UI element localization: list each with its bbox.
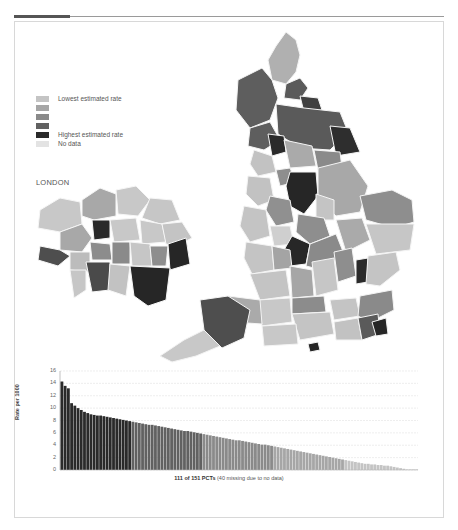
bar: [128, 421, 131, 470]
bar: [283, 448, 286, 470]
bar: [144, 424, 147, 470]
bar: [148, 425, 151, 470]
bar: [167, 428, 170, 470]
bar: [293, 450, 296, 470]
bar: [131, 422, 134, 470]
bar: [348, 461, 351, 470]
bar: [183, 431, 186, 470]
bar: [70, 403, 73, 470]
y-tick-label: 4: [44, 441, 56, 447]
bar: [219, 437, 222, 470]
bar: [370, 464, 373, 470]
bar: [322, 456, 325, 470]
bar: [386, 466, 389, 470]
bar: [244, 442, 247, 470]
bar: [251, 443, 254, 470]
caption-rest: (40 missing due to no data): [216, 475, 284, 481]
bar: [309, 453, 312, 470]
bar: [257, 444, 260, 470]
bar: [393, 467, 396, 470]
bar: [241, 441, 244, 470]
y-tick-label: 10: [44, 404, 56, 410]
bar: [267, 445, 270, 470]
bar: [341, 459, 344, 470]
bar: [280, 448, 283, 470]
bar: [373, 464, 376, 470]
bar: [154, 425, 157, 470]
bar: [331, 458, 334, 470]
y-axis-label: Rate per 1000: [14, 384, 20, 420]
y-tick-label: 2: [44, 454, 56, 460]
bar: [157, 426, 160, 470]
bar: [315, 455, 318, 470]
bar: [177, 430, 180, 470]
bar: [377, 465, 380, 470]
bar: [96, 416, 99, 470]
bar: [160, 427, 163, 470]
bar: [125, 421, 128, 471]
bar: [389, 466, 392, 470]
bar: [238, 440, 241, 470]
bar: [109, 417, 112, 470]
bar: [335, 458, 338, 470]
bar: [90, 414, 93, 470]
bar: [73, 406, 76, 470]
bar: [360, 463, 363, 470]
bar: [277, 447, 280, 470]
bar: [141, 424, 144, 470]
bar: [296, 451, 299, 470]
bar: [364, 464, 367, 470]
bar: [102, 416, 105, 470]
x-axis-caption: 111 of 151 PCTs (40 missing due to no da…: [0, 475, 458, 481]
bar: [299, 451, 302, 470]
bar: [328, 457, 331, 470]
bar: [367, 464, 370, 470]
y-tick-label: 6: [44, 429, 56, 435]
bar: [173, 429, 176, 470]
bar: [80, 410, 83, 470]
bar: [286, 449, 289, 470]
y-tick-label: 0: [44, 466, 56, 472]
bar: [351, 461, 354, 470]
bar: [115, 419, 118, 470]
bar: [312, 454, 315, 470]
bar: [319, 455, 322, 470]
bar: [235, 440, 238, 470]
bar: [67, 388, 70, 470]
bar: [186, 431, 189, 470]
bar: [135, 422, 138, 470]
bar: [196, 433, 199, 470]
bar: [289, 450, 292, 470]
bar: [190, 432, 193, 470]
bar: [231, 440, 234, 470]
bar: [302, 452, 305, 470]
bar: [215, 437, 218, 470]
bar: [202, 434, 205, 470]
bar: [77, 408, 80, 470]
bar: [270, 446, 273, 470]
bar: [273, 446, 276, 470]
bar: [383, 466, 386, 470]
bar: [122, 420, 125, 470]
bar: [151, 425, 154, 470]
bar: [228, 439, 231, 470]
bar: [86, 413, 89, 470]
bar: [380, 465, 383, 470]
bar: [354, 462, 357, 470]
bar: [83, 412, 86, 470]
y-tick-label: 12: [44, 392, 56, 398]
y-tick-label: 8: [44, 417, 56, 423]
bar: [248, 442, 251, 470]
bar: [254, 443, 257, 470]
bar: [93, 415, 96, 470]
bar: [357, 463, 360, 470]
caption-bold: 111 of 151 PCTs: [174, 475, 215, 481]
bar: [99, 416, 102, 470]
bar: [180, 430, 183, 470]
y-tick-label: 14: [44, 379, 56, 385]
bar: [61, 382, 64, 470]
bar: [338, 459, 341, 470]
bar-chart: [0, 0, 458, 530]
bar: [112, 418, 115, 470]
bar: [209, 435, 212, 470]
